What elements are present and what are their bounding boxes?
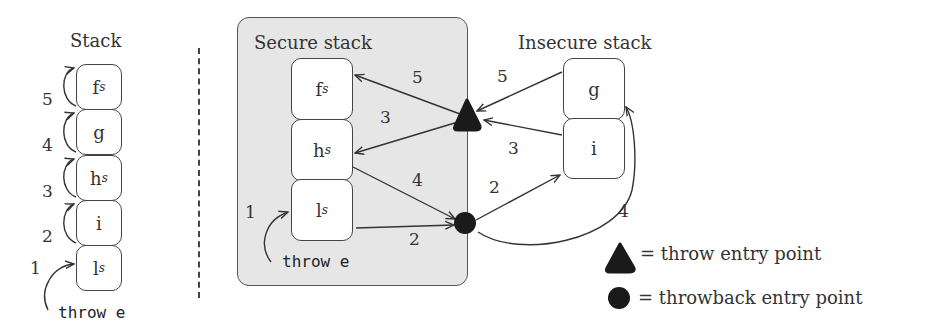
insecure-frame-i: i — [563, 118, 625, 179]
frame-label: g — [588, 79, 600, 100]
stack-frame-h: hs — [76, 155, 122, 201]
secure-throw-e-code: throw e — [282, 252, 349, 271]
frame-label: h — [313, 140, 325, 161]
edge-label-4-left: 4 — [412, 170, 423, 190]
frame-label: f — [316, 79, 323, 100]
secure-stack-title: Secure stack — [254, 32, 372, 53]
edge-label-4-right: 4 — [618, 201, 629, 221]
divider-dashed — [198, 48, 200, 298]
frame-label: h — [90, 168, 102, 189]
secure-frame-l: ls — [291, 179, 353, 241]
edge-label-5-right: 5 — [497, 66, 508, 86]
stack-frame-i: i — [76, 200, 122, 246]
step-label-4: 4 — [42, 135, 53, 155]
edge-label-2-left: 2 — [409, 229, 420, 249]
stack-frame-f: fs — [76, 64, 122, 110]
stack-frame-g: g — [76, 109, 122, 155]
stack-title: Stack — [70, 30, 121, 51]
step-label-1: 1 — [30, 258, 41, 278]
edge-label-3-left: 3 — [380, 107, 391, 127]
step-label-5: 5 — [42, 89, 53, 109]
legend-circle-icon — [608, 287, 630, 309]
secure-frame-h: hs — [291, 119, 353, 181]
frame-label: i — [591, 138, 597, 159]
insecure-frame-g: g — [563, 58, 625, 120]
legend-throwback-label: = throwback entry point — [638, 287, 862, 308]
frame-label: i — [96, 213, 102, 234]
frame-label: g — [93, 122, 105, 143]
edge-label-5-left: 5 — [412, 67, 423, 87]
edge-label-2-right: 2 — [489, 177, 500, 197]
step-label-3: 3 — [42, 181, 53, 201]
legend-throw-label: = throw entry point — [640, 243, 821, 264]
step-label-2: 2 — [42, 226, 53, 246]
legend-triangle-icon — [606, 244, 634, 272]
diagram-arrows — [0, 0, 937, 332]
insecure-stack-title: Insecure stack — [518, 32, 651, 53]
frame-label: f — [93, 77, 100, 98]
throw-e-code: throw e — [58, 303, 125, 322]
edge-label-3-right: 3 — [508, 138, 519, 158]
stack-frame-l: ls — [76, 245, 122, 291]
secure-step-1: 1 — [245, 202, 256, 222]
secure-frame-f: fs — [291, 58, 353, 120]
